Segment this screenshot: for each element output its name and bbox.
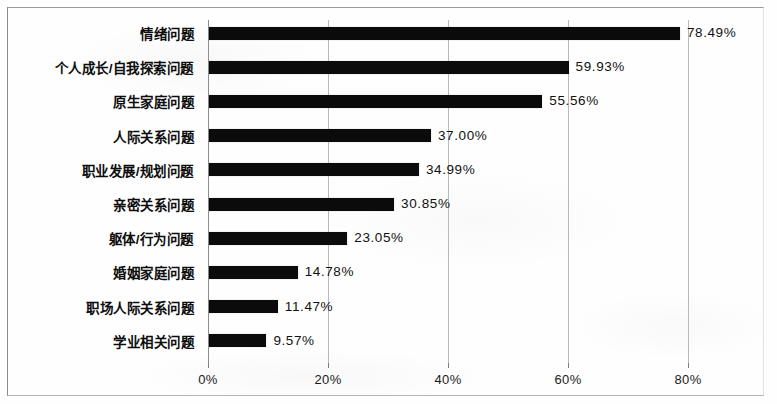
axis-tick-label: 60%	[554, 372, 581, 387]
axis-tick-label: 40%	[434, 372, 461, 387]
category-label: 人际关系问题	[113, 126, 194, 146]
bar	[209, 129, 431, 142]
bar	[209, 334, 266, 347]
axis-tick-20	[328, 363, 329, 368]
category-label: 原生家庭问题	[113, 91, 194, 111]
chart-figure: 情绪问题个人成长/自我探索问题原生家庭问题人际关系问题职业发展/规划问题亲密关系…	[0, 0, 777, 404]
category-axis-labels: 情绪问题个人成长/自我探索问题原生家庭问题人际关系问题职业发展/规划问题亲密关系…	[0, 20, 200, 363]
category-label: 职场人际关系问题	[86, 297, 194, 317]
axis-tick-label: 80%	[674, 372, 701, 387]
axis-tick-40	[448, 363, 449, 368]
axis-tick-60	[568, 363, 569, 368]
plot-area: 0%20%40%60%80%78.49%59.93%55.56%37.00%34…	[208, 20, 688, 363]
category-label: 个人成长/自我探索问题	[55, 57, 194, 77]
bar-value-label: 55.56%	[549, 93, 598, 108]
axis-tick-80	[688, 363, 689, 368]
bar-value-label: 78.49%	[687, 25, 736, 40]
bar	[209, 27, 680, 40]
bar	[209, 300, 278, 313]
bar	[209, 95, 542, 108]
bar-value-label: 34.99%	[426, 162, 475, 177]
axis-tick-label: 0%	[198, 372, 218, 387]
category-label: 职业发展/规划问题	[82, 160, 194, 180]
category-label: 婚姻家庭问题	[113, 262, 194, 282]
bar	[209, 198, 394, 211]
bar	[209, 163, 419, 176]
bar-value-label: 37.00%	[438, 128, 487, 143]
bar-value-label: 30.85%	[401, 196, 450, 211]
gridline-80	[688, 20, 689, 363]
category-label: 躯体/行为问题	[109, 228, 194, 248]
bar-value-label: 59.93%	[576, 59, 625, 74]
bar	[209, 61, 569, 74]
bar-value-label: 14.78%	[305, 264, 354, 279]
bar-value-label: 11.47%	[285, 299, 333, 314]
bar-value-label: 23.05%	[354, 230, 403, 245]
category-label: 情绪问题	[140, 23, 194, 43]
axis-tick-label: 20%	[314, 372, 341, 387]
category-label: 亲密关系问题	[113, 194, 194, 214]
bar-value-label: 9.57%	[273, 333, 314, 348]
axis-tick-0	[208, 363, 209, 368]
bar	[209, 232, 347, 245]
category-label: 学业相关问题	[113, 331, 194, 351]
bar	[209, 266, 298, 279]
